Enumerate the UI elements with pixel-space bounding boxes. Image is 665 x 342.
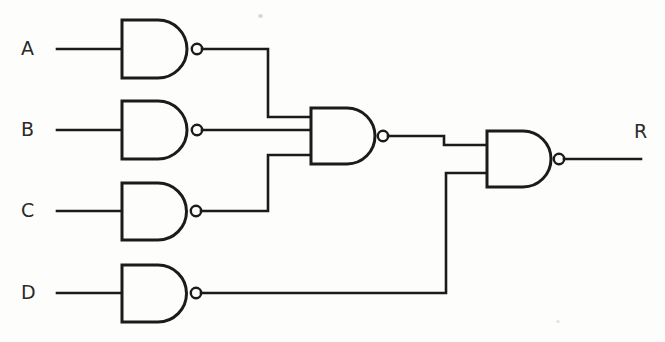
input-label-c: C [21, 201, 34, 220]
input-label-b: B [21, 120, 34, 139]
gate-d-body [122, 265, 187, 322]
wire-gate-mid-to-out [388, 136, 488, 145]
logic-circuit-diagram: A B C D R [0, 0, 665, 342]
input-label-d: D [21, 283, 36, 302]
gate-out-body [487, 131, 551, 187]
wire-gate-c-to-mid [201, 155, 312, 211]
input-label-a: A [21, 39, 34, 58]
gate-b-body [122, 101, 187, 159]
gate-b-bubble-icon [192, 125, 202, 135]
wire-gate-a-to-mid [202, 49, 312, 117]
circuit-canvas [0, 0, 665, 342]
gate-a-bubble-icon [192, 44, 202, 54]
paper-speck [556, 320, 560, 323]
output-label-r: R [634, 122, 647, 141]
wire-gate-d-to-out [201, 173, 488, 293]
gate-mid-body [311, 108, 375, 164]
gate-out-bubble-icon [554, 154, 564, 164]
gate-mid-bubble-icon [378, 131, 388, 141]
paper-speck [258, 14, 263, 18]
gate-d-bubble-icon [191, 288, 201, 298]
gate-a-body [122, 20, 187, 78]
gate-c-body [122, 183, 187, 240]
gate-c-bubble-icon [191, 206, 201, 216]
